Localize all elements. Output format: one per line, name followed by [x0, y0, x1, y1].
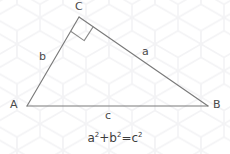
triangle-side-a	[79, 17, 208, 106]
side-label-b: b	[39, 51, 46, 62]
formula-equals-sign: =	[121, 131, 131, 145]
formula-exponent-c: 2	[138, 131, 142, 139]
formula-term-a: a	[87, 131, 94, 145]
pythagorean-formula: a2+b2=c2	[0, 131, 230, 145]
vertex-label-b: B	[213, 99, 221, 110]
diagram-canvas: A B C a b c a2+b2=c2	[0, 0, 230, 154]
right-angle-marker	[71, 27, 93, 41]
side-label-a: a	[142, 46, 149, 57]
triangle-side-b	[27, 17, 79, 106]
formula-plus-sign: +	[99, 131, 109, 145]
formula-term-b: b	[109, 131, 117, 145]
vertex-label-a: A	[10, 99, 18, 110]
side-label-c: c	[105, 110, 111, 121]
vertex-label-c: C	[75, 1, 83, 12]
